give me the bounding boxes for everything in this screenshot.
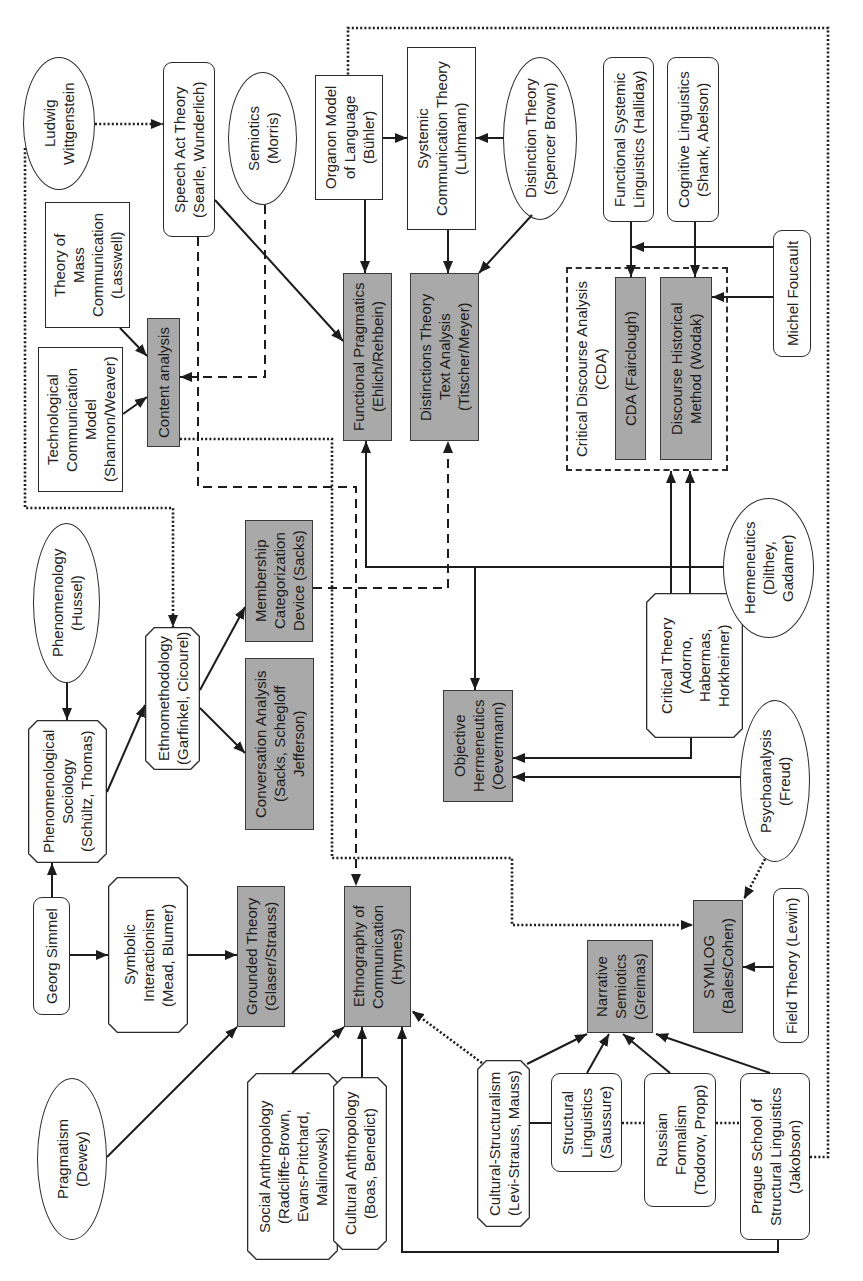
node-psychoanalysis: Psychoanalysis (Freud) bbox=[740, 700, 810, 862]
node-label: Georg Simmel bbox=[34, 898, 69, 1014]
node-label: Distinction Theory (Spencer Brown) bbox=[504, 58, 576, 219]
node-label: Field Theory (Lewin) bbox=[774, 889, 808, 1042]
node-label: Semiotics (Morris) bbox=[229, 73, 296, 204]
edge-speech-act-to-functional-pragmatics bbox=[215, 200, 343, 341]
node-label: Prague School of Structural Linguistics … bbox=[741, 1074, 809, 1239]
node-label: Content analysis bbox=[148, 319, 179, 446]
edge-phenomenological-sociology-to-ethnomethodology bbox=[107, 705, 145, 792]
edge-prague-to-narrative-semiotics bbox=[656, 1034, 770, 1073]
node-label: Functional Pragmatics (Ehlich/Rehbein) bbox=[344, 274, 391, 440]
edge-pragmatism-to-grounded-theory bbox=[107, 1027, 237, 1157]
node-label: Theory of Mass Communication (Lasswell) bbox=[46, 203, 129, 327]
edge-structural-linguistics-to-narrative-semiotics bbox=[587, 1034, 609, 1073]
node-phenomenological-sociology: Phenomenological Sociology (Schültz, Tho… bbox=[28, 720, 107, 863]
node-ethnography-of-communication: Ethnography of Communication (Hymes) bbox=[344, 886, 411, 1027]
node-michel-foucault: Michel Foucault bbox=[773, 230, 811, 357]
node-organon-model: Organon Model of Language (Bühler) bbox=[315, 75, 383, 200]
node-grounded-theory: Grounded Theory (Glaser/Strauss) bbox=[237, 886, 285, 1027]
node-label: Cognitive Linguistics (Shank, Abelson) bbox=[668, 58, 718, 221]
node-cultural-structuralism: Cultural-Structuralism (Levi-Strauss, Ma… bbox=[477, 1060, 530, 1227]
node-field-theory: Field Theory (Lewin) bbox=[773, 888, 809, 1043]
node-label: Objective Hermeneutics (Oevermann) bbox=[444, 691, 512, 801]
node-content-analysis: Content analysis bbox=[147, 318, 180, 447]
node-label: Systemic Communication Theory (Luhmann) bbox=[408, 48, 475, 229]
node-functional-pragmatics: Functional Pragmatics (Ehlich/Rehbein) bbox=[343, 273, 392, 441]
node-distinctions-text-analysis: Distinctions Theory Text Analysis (Titsc… bbox=[410, 273, 479, 441]
node-label: Distinctions Theory Text Analysis (Titsc… bbox=[411, 274, 478, 440]
node-symlog: SYMLOG (Bales/Cohen) bbox=[693, 900, 743, 1033]
edge-critical-theory-to-objective-hermeneutics bbox=[513, 738, 691, 758]
node-membership-categorization: Membership Categorization Device (Sacks) bbox=[245, 520, 313, 642]
node-label: Ethnography of Communication (Hymes) bbox=[345, 887, 410, 1026]
edge-cultural-structuralism-to-ethnography bbox=[412, 1011, 482, 1063]
cda-group-label: Critical Discourse Analysis (CDA) bbox=[570, 269, 612, 469]
node-cda-fairclough: CDA (Fairclough) bbox=[615, 277, 646, 460]
edge-distinction-theory-to-distinctions bbox=[479, 215, 532, 273]
node-label: Ethnomethodology (Garfinkel, Cicourel) bbox=[145, 627, 200, 770]
node-label: Membership Categorization Device (Sacks) bbox=[246, 521, 312, 641]
node-phenomenology: Phenomenology (Hussel) bbox=[33, 523, 100, 683]
node-prague-school: Prague School of Structural Linguistics … bbox=[740, 1073, 810, 1240]
node-label: Phenomenology (Hussel) bbox=[34, 524, 99, 682]
node-label: Technological Communication Model (Shann… bbox=[39, 348, 122, 491]
node-semiotics: Semiotics (Morris) bbox=[228, 72, 297, 205]
node-label: Phenomenological Sociology (Schültz, Tho… bbox=[28, 720, 107, 863]
node-label: CDA (Fairclough) bbox=[616, 278, 645, 459]
node-label: SYMLOG (Bales/Cohen) bbox=[694, 901, 742, 1032]
edge-ethnomethodology-to-conversation bbox=[200, 708, 245, 753]
node-label: Speech Act Theory (Searle, Wunderlich) bbox=[164, 63, 214, 236]
node-mass-communication: Theory of Mass Communication (Lasswell) bbox=[45, 202, 130, 328]
node-social-anthropology: Social Anthropology (Radcliffe-Brown, Ev… bbox=[247, 1073, 338, 1260]
node-label: Psychoanalysis (Freud) bbox=[741, 701, 809, 861]
node-pragmatism: Pragmatism (Dewey) bbox=[37, 1078, 107, 1240]
node-label: Organon Model of Language (Bühler) bbox=[316, 76, 382, 199]
node-label: Structural Linguistics (Saussure) bbox=[552, 1074, 621, 1171]
node-ethnomethodology: Ethnomethodology (Garfinkel, Cicourel) bbox=[145, 627, 200, 770]
node-systemic-communication: Systemic Communication Theory (Luhmann) bbox=[407, 47, 476, 230]
node-label: Ludwig Wittgenstein bbox=[24, 58, 94, 189]
node-label: Narrative Semiotics (Greimas) bbox=[588, 941, 652, 1032]
node-label: Grounded Theory (Glaser/Strauss) bbox=[238, 887, 284, 1026]
theory-map-diagram: Ludwig Wittgenstein Speech Act Theory (S… bbox=[0, 0, 863, 1281]
node-label: Russian Formalism (Todorov, Propp) bbox=[645, 1074, 715, 1206]
edge-psychoanalysis-to-symlog bbox=[744, 859, 765, 899]
node-technological-model: Technological Communication Model (Shann… bbox=[38, 347, 123, 492]
node-functional-systemic-linguistics: Functional Systemic Linguistics (Hallida… bbox=[603, 57, 654, 222]
node-distinction-theory: Distinction Theory (Spencer Brown) bbox=[503, 57, 577, 220]
node-structural-linguistics: Structural Linguistics (Saussure) bbox=[551, 1073, 622, 1172]
node-label: Pragmatism (Dewey) bbox=[38, 1079, 106, 1239]
node-objective-hermeneutics: Objective Hermeneutics (Oevermann) bbox=[443, 690, 513, 802]
node-label: Michel Foucault bbox=[774, 231, 810, 356]
edge-russian-formalism-to-narrative-semiotics bbox=[623, 1034, 670, 1073]
node-discourse-historical-method: Discourse Historical Method (Wodak) bbox=[660, 277, 712, 460]
node-russian-formalism: Russian Formalism (Todorov, Propp) bbox=[644, 1073, 716, 1207]
edge-technological-model-to-content-analysis bbox=[123, 397, 147, 414]
edge-cultural-structuralism-to-narrative-semiotics bbox=[527, 1034, 587, 1064]
node-conversation-analysis: Conversation Analysis (Sacks, Schegloff … bbox=[245, 658, 314, 830]
node-label: Symbolic Interactionism (Mead, Blumer) bbox=[108, 877, 188, 1033]
node-label: Hermeneutics (Dilthey, Gadamer) bbox=[724, 499, 813, 637]
node-label: Functional Systemic Linguistics (Hallida… bbox=[604, 58, 653, 221]
node-label: Social Anthropology (Radcliffe-Brown, Ev… bbox=[247, 1073, 338, 1260]
node-wittgenstein: Ludwig Wittgenstein bbox=[23, 57, 95, 190]
node-georg-simmel: Georg Simmel bbox=[33, 897, 70, 1015]
node-hermeneutics: Hermeneutics (Dilthey, Gadamer) bbox=[723, 498, 814, 638]
node-label: Discourse Historical Method (Wodak) bbox=[661, 278, 711, 459]
node-speech-act-theory: Speech Act Theory (Searle, Wunderlich) bbox=[163, 62, 215, 237]
node-label: Cultural-Structuralism (Levi-Strauss, Ma… bbox=[477, 1060, 530, 1227]
node-narrative-semiotics: Narrative Semiotics (Greimas) bbox=[587, 940, 653, 1033]
node-label: Cultural Anthropology (Boas, Benedict) bbox=[333, 1077, 387, 1250]
node-label: Conversation Analysis (Sacks, Schegloff … bbox=[246, 659, 313, 829]
edge-membership-to-distinctions bbox=[313, 441, 448, 588]
node-cognitive-linguistics: Cognitive Linguistics (Shank, Abelson) bbox=[667, 57, 719, 222]
node-cultural-anthropology: Cultural Anthropology (Boas, Benedict) bbox=[333, 1077, 387, 1250]
edge-mass-communication-to-content-analysis bbox=[120, 328, 147, 356]
node-symbolic-interactionism: Symbolic Interactionism (Mead, Blumer) bbox=[108, 877, 188, 1033]
edge-social-anthropology-to-ethnography bbox=[292, 1027, 344, 1073]
edge-ethnomethodology-to-membership bbox=[200, 607, 245, 690]
